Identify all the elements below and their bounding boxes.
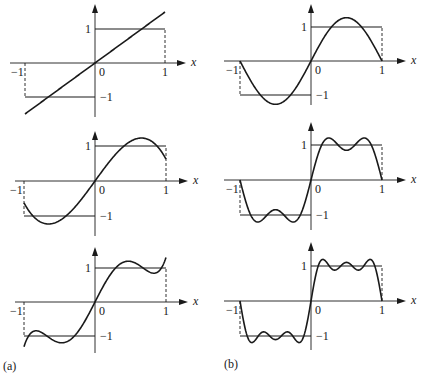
- tick-label-y-1: 1: [301, 21, 307, 33]
- figure-canvas: [0, 0, 421, 377]
- tick-label-y-1: 1: [301, 139, 307, 151]
- tick-label-origin: 0: [99, 66, 105, 78]
- tick-label-x-neg1: −1: [226, 304, 239, 316]
- tick-label-x-1: 1: [163, 305, 169, 317]
- x-axis-label: x: [411, 173, 416, 185]
- x-axis-arrow-icon: [179, 299, 188, 305]
- tick-label-y-neg1: −1: [316, 330, 329, 342]
- tick-label-y-neg1: −1: [316, 209, 329, 221]
- tick-label-y-neg1: −1: [100, 330, 113, 342]
- y-axis-arrow-icon: [92, 131, 98, 140]
- y-axis-arrow-icon: [92, 247, 98, 256]
- x-axis-arrow-icon: [397, 298, 406, 304]
- y-axis-arrow-icon: [308, 242, 314, 251]
- tick-label-y-1: 1: [301, 260, 307, 272]
- panel-label-b: (b): [224, 357, 238, 372]
- x-axis-label: x: [411, 54, 416, 66]
- x-axis-label: x: [411, 294, 416, 306]
- tick-label-x-1: 1: [163, 184, 169, 196]
- tick-label-x-neg1: −1: [10, 305, 23, 317]
- tick-label-origin: 0: [315, 304, 321, 316]
- x-axis-label: x: [193, 295, 198, 307]
- tick-label-y-1: 1: [85, 23, 91, 35]
- tick-label-origin: 0: [315, 64, 321, 76]
- tick-label-x-1: 1: [379, 304, 385, 316]
- tick-label-y-neg1: −1: [316, 89, 329, 101]
- x-axis-label: x: [193, 174, 198, 186]
- tick-label-origin: 0: [99, 184, 105, 196]
- tick-label-x-neg1: −1: [11, 66, 24, 78]
- x-axis-arrow-icon: [179, 178, 188, 184]
- panel-label-a: (a): [3, 359, 16, 374]
- tick-label-x-1: 1: [379, 64, 385, 76]
- tick-label-x-1: 1: [379, 183, 385, 195]
- tick-label-origin: 0: [99, 305, 105, 317]
- tick-label-x-neg1: −1: [10, 184, 23, 196]
- x-axis-arrow-icon: [397, 177, 406, 183]
- tick-label-x-neg1: −1: [226, 183, 239, 195]
- tick-label-x-neg1: −1: [226, 64, 239, 76]
- tick-label-y-neg1: −1: [100, 210, 113, 222]
- y-axis-arrow-icon: [308, 4, 314, 13]
- tick-label-origin: 0: [315, 183, 321, 195]
- tick-label-y-neg1: −1: [100, 91, 113, 103]
- tick-label-x-1: 1: [162, 66, 168, 78]
- tick-label-y-1: 1: [85, 262, 91, 274]
- x-axis-arrow-icon: [397, 58, 406, 64]
- y-axis-arrow-icon: [92, 4, 98, 13]
- tick-label-y-1: 1: [85, 140, 91, 152]
- y-axis-arrow-icon: [308, 122, 314, 131]
- x-axis-arrow-icon: [177, 60, 186, 66]
- x-axis-label: x: [191, 56, 196, 68]
